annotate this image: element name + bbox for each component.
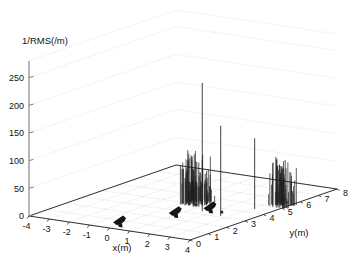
marker-arrow-2-icon (169, 206, 182, 218)
x-tick (108, 228, 110, 231)
data-stems (180, 83, 296, 216)
marker-small-1-icon (195, 204, 198, 207)
floor-grid-line-y (47, 210, 208, 234)
z-tick-label: 150 (9, 128, 24, 138)
z-tick-label: 100 (9, 156, 24, 166)
y-tick (264, 215, 267, 216)
y-tick (319, 195, 322, 196)
x-tick-label: 0 (104, 233, 109, 243)
x-tick (148, 234, 150, 237)
z-tick (29, 215, 34, 216)
wall-gridlines (29, 10, 337, 188)
wall-grid-ring (29, 82, 337, 133)
wall-grid-ring (29, 27, 337, 78)
figure-canvas: 050100150200250-4-3-2-101234012345678 1/… (0, 0, 364, 265)
x-tick-label: -2 (63, 227, 71, 237)
wall-grid-ring-top (29, 10, 337, 61)
x-tick-label: 4 (185, 245, 190, 255)
marker-arrow-1-icon (113, 216, 126, 228)
plot-3d: 050100150200250-4-3-2-101234012345678 1/… (0, 0, 364, 265)
marker-small-2-icon (220, 211, 223, 214)
x-tick-label: -4 (22, 221, 30, 231)
x-tick-label: 3 (165, 242, 170, 252)
x-tick (188, 240, 190, 243)
y-tick (208, 234, 211, 235)
y-tick-label: 8 (343, 188, 348, 198)
marker-small-3-icon (282, 202, 285, 205)
x-axis-title: x(m) (113, 242, 132, 253)
y-tick-label: 0 (196, 239, 201, 249)
y-tick-label: 7 (325, 194, 330, 204)
y-tick-label: 6 (306, 200, 311, 210)
x-tick-label: 2 (145, 239, 150, 249)
wall-grid-ring (29, 110, 337, 161)
y-tick-label: 5 (288, 207, 293, 217)
x-tick (67, 222, 69, 225)
y-tick-label: 2 (233, 226, 238, 236)
z-tick (29, 187, 34, 188)
y-tick (337, 189, 340, 190)
x-tick (128, 231, 130, 234)
y-tick-label: 1 (214, 232, 219, 242)
z-tick-label: 200 (9, 101, 24, 111)
x-tick-label: -1 (83, 230, 91, 240)
z-tick-label: 50 (14, 184, 24, 194)
x-tick (27, 216, 29, 219)
y-tick (245, 221, 248, 222)
x-tick (87, 225, 89, 228)
y-axis-title: y(m) (290, 227, 309, 238)
y-tick-label: 4 (269, 213, 274, 223)
z-tick (29, 132, 34, 133)
z-tick (29, 76, 34, 77)
z-tick (29, 104, 34, 105)
x-tick-label: -3 (43, 224, 51, 234)
wall-grid-ring (29, 54, 337, 105)
y-tick (227, 227, 230, 228)
z-tick-label: 250 (9, 73, 24, 83)
floor-grid-line-x (150, 183, 297, 234)
y-tick (190, 240, 193, 241)
y-tick-label: 3 (251, 219, 256, 229)
x-tick (47, 219, 49, 222)
y-tick (300, 202, 303, 203)
x-tick (168, 237, 170, 240)
z-axis-title: 1/RMS(/m) (22, 35, 68, 46)
z-tick (29, 159, 34, 160)
